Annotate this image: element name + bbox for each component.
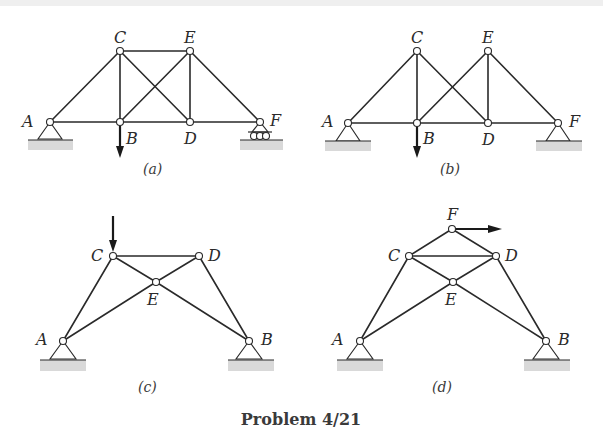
node-label-c: C	[411, 28, 423, 47]
joint-d	[493, 253, 500, 260]
node-label-b: B	[125, 129, 138, 148]
node-label-a: A	[34, 330, 48, 349]
truss-a-members	[50, 51, 260, 122]
joint-c	[110, 253, 117, 260]
truss-c: A B C D E (c)	[34, 216, 274, 395]
node-label-e: E	[183, 28, 196, 47]
load-arrow-down-icon	[109, 216, 117, 252]
node-label-b: B	[260, 330, 273, 349]
node-label-d: D	[207, 246, 221, 265]
joint-b	[117, 119, 124, 126]
joint-b	[246, 338, 253, 345]
node-label-a: A	[20, 112, 34, 131]
node-label-d: D	[504, 246, 518, 265]
node-label-c: C	[388, 246, 400, 265]
joint-e	[187, 48, 194, 55]
joint-e	[153, 279, 160, 286]
node-label-c: C	[114, 28, 126, 47]
load-arrow-right-icon	[456, 225, 502, 233]
pin-support-a	[337, 341, 383, 371]
joint-a	[60, 338, 67, 345]
joint-e	[485, 48, 492, 55]
joint-d	[196, 253, 203, 260]
load-arrow-down-icon	[413, 127, 421, 158]
pin-support-a	[28, 122, 73, 150]
node-label-e: E	[146, 290, 159, 309]
truss-b-members	[348, 51, 558, 123]
node-label-b: B	[422, 129, 435, 148]
joint-f	[555, 120, 562, 127]
node-label-a: A	[320, 112, 334, 131]
joint-f	[257, 119, 264, 126]
truss-a: A B C D E F (a)	[20, 28, 283, 177]
node-label-e: E	[444, 290, 457, 309]
load-arrow-down-icon	[116, 126, 124, 158]
joint-d	[485, 120, 492, 127]
joint-d	[187, 119, 194, 126]
joint-f	[449, 226, 456, 233]
joint-c	[414, 48, 421, 55]
truss-d: A B C D E F (d)	[330, 205, 570, 395]
truss-b: A B C D E F (b)	[320, 28, 582, 177]
top-border-band	[0, 0, 603, 6]
joint-a	[345, 120, 352, 127]
node-label-e: E	[481, 28, 494, 47]
joint-a	[47, 119, 54, 126]
node-label-c: C	[91, 246, 103, 265]
truss-problem-figure: A B C D E F (a)	[0, 0, 603, 434]
node-label-a: A	[330, 330, 344, 349]
joint-a	[357, 338, 364, 345]
joint-c	[406, 253, 413, 260]
joint-b	[543, 338, 550, 345]
node-label-f: F	[269, 111, 282, 130]
joint-b	[414, 120, 421, 127]
subfigure-label-d: (d)	[432, 379, 452, 395]
subfigure-label-a: (a)	[143, 161, 162, 177]
subfigure-label-c: (c)	[138, 379, 157, 395]
node-label-d: D	[183, 129, 197, 148]
node-label-f: F	[568, 112, 581, 131]
node-label-b: B	[557, 330, 570, 349]
node-label-f: F	[446, 205, 459, 224]
node-label-d: D	[481, 130, 495, 149]
subfigure-label-b: (b)	[440, 161, 460, 177]
figure-caption: Problem 4/21	[241, 410, 361, 429]
joint-c	[117, 48, 124, 55]
joint-e	[450, 279, 457, 286]
